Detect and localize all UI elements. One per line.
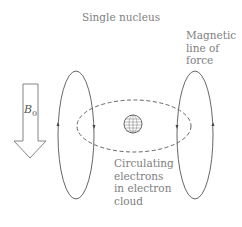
left-field-line-loop — [58, 71, 94, 199]
electron-cloud-label: Circulating electrons in electron cloud — [114, 157, 194, 207]
b0-field-label: B0 — [24, 103, 37, 118]
b0-field-arrow — [14, 84, 46, 158]
diagram-title: Single nucleus — [82, 11, 160, 24]
right-loop-arrow-down-icon — [176, 125, 179, 129]
right-loop-arrow-up-icon — [212, 122, 215, 126]
left-loop-arrow-up-icon — [57, 122, 60, 126]
magnetic-line-label: Magnetic line of force — [186, 29, 236, 67]
nucleus-sphere-icon — [124, 115, 142, 133]
left-loop-arrow-down-icon — [93, 125, 96, 129]
